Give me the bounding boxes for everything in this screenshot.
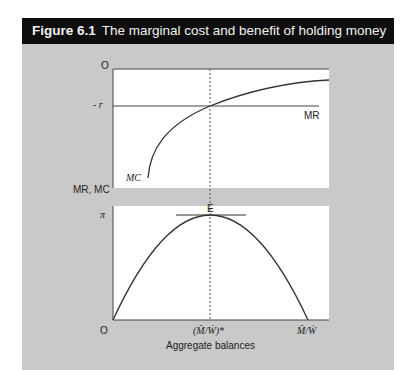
x-axis-label: Aggregate balances — [166, 340, 255, 351]
x-opt-label: (M̄/Ẇ)* — [193, 325, 224, 336]
pi-label: π — [100, 209, 105, 220]
x-max-label: M̄/Ẇ — [297, 325, 316, 336]
origin-label: O — [100, 325, 108, 336]
mr-label: MR — [304, 110, 320, 121]
top-y-label-r: - r — [93, 99, 103, 110]
top-plot-area — [113, 69, 329, 188]
top-y-label-zero: O — [101, 60, 109, 71]
y-axis-label: MR, MC — [73, 184, 110, 195]
bottom-plot-area — [113, 206, 329, 320]
mc-label: MC — [126, 172, 141, 183]
peak-e-label: E — [207, 203, 214, 214]
